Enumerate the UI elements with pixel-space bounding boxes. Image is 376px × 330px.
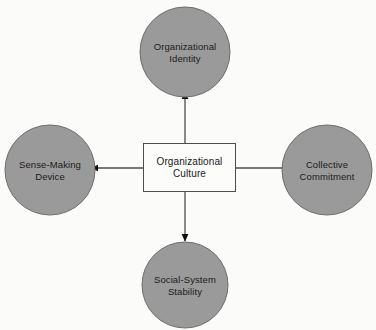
node-circle-social-system-stability[interactable] [142, 242, 228, 328]
node-rect-organizational-culture[interactable] [144, 144, 236, 192]
node-circle-sense-making-device[interactable] [5, 125, 95, 215]
node-circle-organizational-identity[interactable] [140, 7, 230, 97]
diagram-canvas: Organizational Identity Sense-Making Dev… [0, 0, 376, 330]
diagram-graphics [0, 0, 376, 330]
node-circle-collective-commitment[interactable] [282, 125, 372, 215]
